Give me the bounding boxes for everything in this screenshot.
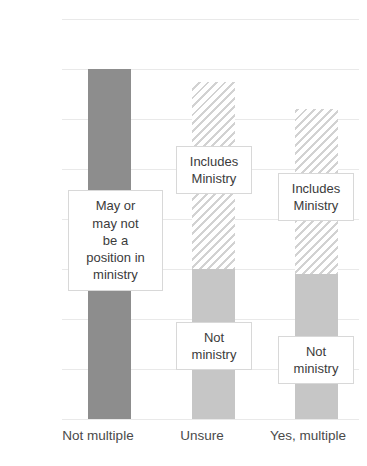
gridline-40 [62, 19, 359, 20]
x-label-unsure: Unsure [168, 428, 236, 443]
plot-area: May or may not be a position in ministry… [62, 19, 359, 419]
x-label-not-multiple: Not multiple [57, 428, 139, 443]
gridline-0 [62, 419, 359, 420]
bar-annotation-yes-not-ministry: Not ministry [278, 336, 354, 384]
bar-annotation-may-or-may-not: May or may not be a position in ministry [68, 190, 163, 291]
bar-annotation-unsure-not-ministry: Not ministry [176, 322, 252, 370]
bar-annotation-yes-includes-ministry: Includes Ministry [278, 173, 354, 221]
x-label-yes-multiple: Yes, multiple [259, 428, 357, 443]
bar-annotation-unsure-includes-ministry: Includes Ministry [176, 146, 252, 194]
bar-chart: 40% 35% 30% 25% 20% 15% 10% 5% 0% [0, 0, 367, 466]
y-axis: 40% 35% 30% 25% 20% 15% 10% 5% 0% [0, 0, 56, 466]
